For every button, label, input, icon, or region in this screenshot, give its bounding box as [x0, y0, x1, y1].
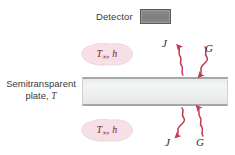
convection-blob-top: T∞, h	[80, 43, 134, 66]
semitransparent-plate	[82, 77, 228, 106]
plate-caption-line1: Semitransparent	[6, 78, 76, 89]
convection-label-bottom: T∞, h	[97, 124, 118, 137]
radiosity-label-bottom: J	[165, 136, 170, 148]
detector-label: Detector	[96, 11, 133, 22]
detector-box	[140, 9, 171, 24]
convection-coefficient-symbol-bottom: h	[112, 124, 117, 135]
detector-group: Detector	[96, 9, 171, 24]
convection-blob-bottom: T∞, h	[80, 119, 134, 142]
irradiation-label-top: G	[205, 42, 213, 54]
irradiation-arrow-bottom	[198, 108, 203, 137]
plate-caption-line2: plate,	[25, 90, 51, 101]
plate-temperature-symbol: T	[51, 91, 56, 101]
convection-coefficient-symbol-top: h	[112, 48, 117, 59]
radiosity-arrow-top	[179, 47, 184, 76]
convection-label-top: T∞, h	[97, 48, 118, 61]
radiosity-label-top: J	[162, 37, 167, 49]
heat-transfer-figure: Detector Semitransparent plate, T T∞, h …	[0, 0, 235, 155]
radiosity-arrow-bottom	[177, 108, 184, 136]
plate-caption: Semitransparent plate, T	[2, 78, 80, 102]
irradiation-label-bottom: G	[196, 136, 204, 148]
